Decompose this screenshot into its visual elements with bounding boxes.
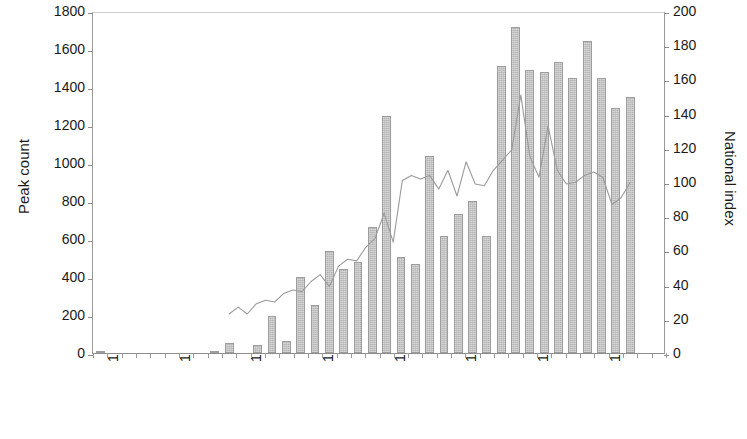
- y-axis-left-title: Peak count: [15, 112, 32, 242]
- y-axis-right-tick-140: 140: [673, 106, 715, 122]
- tickmark-bottom: [666, 353, 667, 358]
- y-axis-left-tick-1600: 1600: [43, 41, 85, 57]
- y-axis-left-tick-1200: 1200: [43, 117, 85, 133]
- y-axis-right-tick-180: 180: [673, 37, 715, 53]
- y-axis-right-tick-80: 80: [673, 208, 715, 224]
- y-axis-right-tick-200: 200: [673, 3, 715, 19]
- y-axis-right-tick-160: 160: [673, 71, 715, 87]
- y-axis-right-tick-120: 120: [673, 140, 715, 156]
- y-axis-left-tick-800: 800: [43, 193, 85, 209]
- y-axis-right-tick-0: 0: [673, 345, 715, 361]
- y-axis-right-tick-60: 60: [673, 242, 715, 258]
- y-axis-left-tick-1800: 1800: [43, 3, 85, 19]
- y-axis-right-title: National index: [722, 104, 739, 254]
- national-index-polyline: [229, 95, 630, 314]
- y-axis-left-tick-1400: 1400: [43, 79, 85, 95]
- y-axis-right-tick-40: 40: [673, 277, 715, 293]
- plot-area: [92, 12, 665, 354]
- line-series-national-index: [93, 13, 666, 355]
- y-axis-right-tick-100: 100: [673, 174, 715, 190]
- y-axis-left-tick-200: 200: [43, 307, 85, 323]
- y-axis-left-tick-0: 0: [43, 345, 85, 361]
- y-axis-left-tick-400: 400: [43, 269, 85, 285]
- y-axis-left-tick-600: 600: [43, 231, 85, 247]
- y-axis-left-tick-1000: 1000: [43, 155, 85, 171]
- y-axis-right-tick-20: 20: [673, 311, 715, 327]
- chart-figure: Peak count National index 02004006008001…: [0, 0, 747, 439]
